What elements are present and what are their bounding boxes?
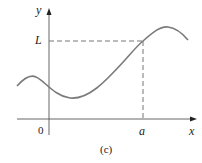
y-axis-arrow-icon	[47, 8, 52, 15]
x-axis-arrow-icon	[190, 117, 197, 122]
figure-caption: (c)	[100, 143, 112, 155]
function-curve	[17, 27, 188, 98]
limit-diagram: y L 0 a x (c)	[0, 0, 202, 163]
y-axis-label: y	[36, 3, 41, 18]
graph-canvas	[0, 0, 202, 163]
x-axis-label: x	[189, 124, 194, 139]
a-label: a	[139, 124, 145, 139]
L-label: L	[35, 33, 42, 48]
origin-label: 0	[38, 124, 44, 136]
